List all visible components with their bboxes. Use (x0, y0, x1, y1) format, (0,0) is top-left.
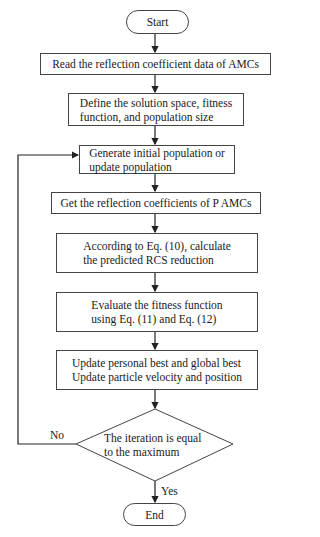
start-terminal: Start (126, 10, 189, 34)
step-label: Get the reflection coefficients of P AMC… (61, 196, 252, 210)
step-label: Define the solution space, fitness funct… (80, 96, 232, 124)
step-get-reflection: Get the reflection coefficients of P AMC… (51, 192, 261, 214)
step-update-best: Update personal best and global best Upd… (56, 350, 258, 390)
no-label: No (50, 429, 64, 441)
step-label: Update personal best and global best Upd… (72, 356, 242, 384)
end-label: End (145, 508, 164, 522)
step-generate-population: Generate initial population or update po… (79, 145, 235, 174)
yes-label: Yes (161, 485, 178, 497)
start-label: Start (147, 15, 169, 29)
step-calc-rcs: According to Eq. (10), calculate the pre… (56, 233, 258, 273)
step-label: Evaluate the fitness function using Eq. … (91, 298, 222, 326)
step-label: According to Eq. (10), calculate the pre… (83, 239, 231, 267)
end-terminal: End (123, 503, 186, 526)
decision-label: The iteration is equal to the maximum (104, 431, 201, 459)
step-define-space: Define the solution space, fitness funct… (68, 93, 244, 126)
step-label: Generate initial population or update po… (89, 146, 225, 174)
step-read-data: Read the reflection coefficient data of … (40, 53, 271, 75)
step-label: Read the reflection coefficient data of … (52, 57, 259, 71)
step-evaluate-fitness: Evaluate the fitness function using Eq. … (56, 292, 258, 332)
